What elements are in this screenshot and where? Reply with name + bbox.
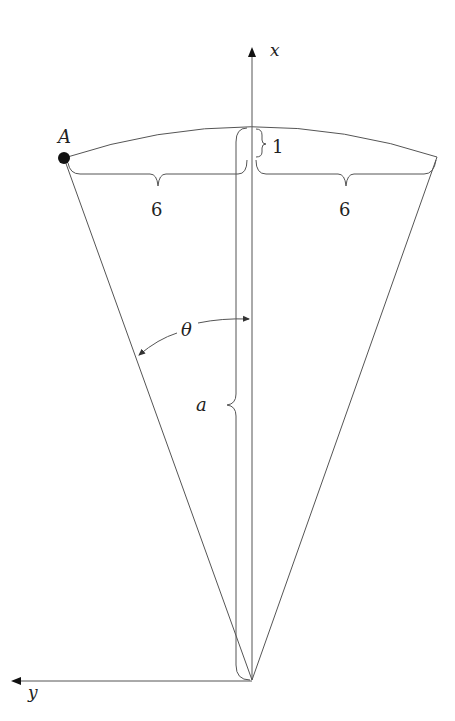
- right-chord-label: 6: [339, 199, 350, 220]
- sector-diagram: x y A 6 6 1 a θ: [0, 0, 455, 721]
- x-axis-label: x: [270, 40, 280, 60]
- sector-arc: [64, 127, 437, 158]
- point-a-label: A: [56, 126, 71, 147]
- left-chord-brace: [68, 160, 247, 186]
- radius-brace: [227, 128, 250, 680]
- sagitta-brace: [256, 129, 266, 157]
- angle-arc-left: [139, 333, 177, 355]
- radius-label: a: [196, 394, 207, 415]
- left-radius: [64, 158, 252, 680]
- y-axis-label: y: [27, 682, 38, 702]
- angle-arc-right: [198, 319, 249, 323]
- right-radius: [252, 157, 437, 680]
- point-a: [58, 152, 70, 164]
- right-chord-brace: [256, 160, 436, 186]
- left-chord-label: 6: [151, 199, 162, 220]
- angle-label: θ: [181, 319, 192, 340]
- sagitta-label: 1: [272, 136, 283, 157]
